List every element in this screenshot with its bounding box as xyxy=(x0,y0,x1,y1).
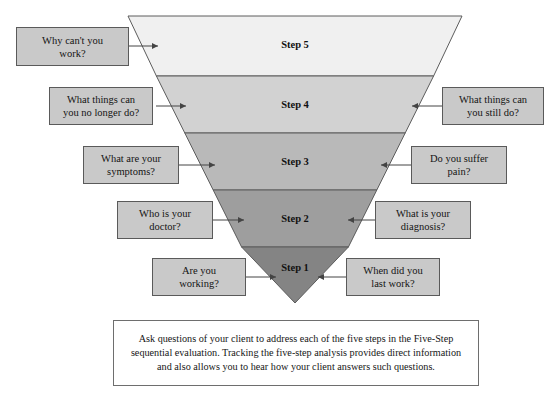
callout-right-step2-line2: diagnosis? xyxy=(396,220,450,233)
step-label-4: Step 4 xyxy=(281,99,309,110)
callout-right-step1[interactable]: When did you last work? xyxy=(346,258,440,296)
callout-left-step4-line1: What things can xyxy=(63,93,139,106)
callout-left-step1-line2: working? xyxy=(179,277,219,290)
callout-left-step4[interactable]: What things can you no longer do? xyxy=(49,87,153,125)
callout-left-step5-line2: work? xyxy=(42,47,103,60)
step-label-1: Step 1 xyxy=(281,262,309,273)
callout-left-step3-line2: symptoms? xyxy=(101,165,161,178)
step-label-5: Step 5 xyxy=(281,39,309,50)
callout-left-step1[interactable]: Are you working? xyxy=(152,258,246,296)
callout-right-step1-line1: When did you xyxy=(363,264,423,277)
caption-box: Ask questions of your client to address … xyxy=(113,320,479,386)
callout-right-step3-line2: pain? xyxy=(430,165,488,178)
callout-right-step4-line2: you still do? xyxy=(459,106,527,119)
diagram-canvas: Step 5 Step 4 Step 3 Step 2 Step 1 Why c… xyxy=(0,0,557,403)
callout-right-step1-line2: last work? xyxy=(363,277,423,290)
callout-right-step2-line1: What is your xyxy=(396,207,450,220)
step-label-2: Step 2 xyxy=(281,213,309,224)
callout-right-step4[interactable]: What things can you still do? xyxy=(442,87,544,125)
callout-right-step4-line1: What things can xyxy=(459,93,527,106)
callout-left-step1-line1: Are you xyxy=(179,264,219,277)
caption-text: Ask questions of your client to address … xyxy=(114,332,478,375)
callout-left-step2-line1: Who is your xyxy=(139,207,191,220)
funnel-band-step1 xyxy=(242,247,349,303)
callout-left-step2[interactable]: Who is your doctor? xyxy=(117,201,213,239)
callout-right-step3-line1: Do you suffer xyxy=(430,152,488,165)
callout-right-step3[interactable]: Do you suffer pain? xyxy=(411,146,507,184)
callout-left-step4-line2: you no longer do? xyxy=(63,106,139,119)
step-label-3: Step 3 xyxy=(281,156,309,167)
callout-left-step3-line1: What are your xyxy=(101,152,161,165)
callout-left-step3[interactable]: What are your symptoms? xyxy=(83,146,179,184)
callout-right-step2[interactable]: What is your diagnosis? xyxy=(375,201,471,239)
callout-left-step2-line2: doctor? xyxy=(139,220,191,233)
callout-left-step5[interactable]: Why can't you work? xyxy=(16,27,129,66)
callout-left-step5-line1: Why can't you xyxy=(42,34,103,47)
